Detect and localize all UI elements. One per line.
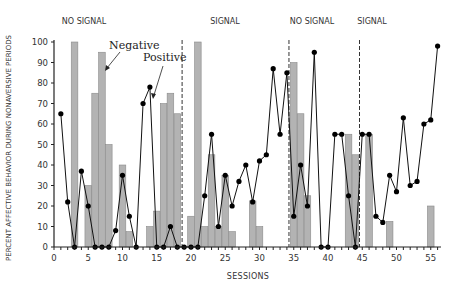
y-tick-label: 90 <box>37 58 48 68</box>
positive-marker <box>223 173 228 178</box>
positive-marker <box>147 85 152 90</box>
y-axis-title: PERCENT AFFECTIVE BEHAVIOR DURING NONAVE… <box>5 34 13 261</box>
negative-bar <box>249 201 256 247</box>
positive-marker <box>264 152 269 157</box>
negative-bar <box>215 227 222 248</box>
positive-marker <box>346 193 351 198</box>
positive-marker <box>140 101 145 106</box>
positive-marker <box>209 132 214 137</box>
positive-marker <box>360 132 365 137</box>
phase-label: SIGNAL <box>210 17 240 26</box>
positive-marker <box>277 132 282 137</box>
x-tick-label: 55 <box>425 253 436 263</box>
positive-marker <box>168 224 173 229</box>
negative-bar <box>174 114 181 247</box>
negative-bar <box>92 93 99 247</box>
negative-bar <box>366 134 373 247</box>
negative-bar <box>201 227 208 248</box>
y-tick-label: 100 <box>32 37 48 47</box>
positive-annotation: Positive <box>143 51 186 64</box>
positive-marker <box>387 173 392 178</box>
positive-marker <box>65 199 70 204</box>
x-tick-label: 25 <box>220 253 231 263</box>
positive-marker <box>250 199 255 204</box>
positive-marker <box>367 132 372 137</box>
positive-marker <box>373 214 378 219</box>
positive-marker <box>298 162 303 167</box>
positive-marker <box>86 203 91 208</box>
positive-marker <box>271 66 276 71</box>
phase-labels: NO SIGNALSIGNALNO SIGNALSIGNAL <box>62 17 388 26</box>
negative-bar <box>229 232 236 247</box>
y-tick-label: 70 <box>37 99 48 109</box>
positive-marker <box>428 117 433 122</box>
chart: NO SIGNALSIGNALNO SIGNALSIGNAL PERCENT A… <box>0 0 458 293</box>
negative-bar <box>99 52 106 247</box>
annotations: NegativePositive <box>105 39 186 99</box>
positive-marker <box>421 121 426 126</box>
y-tick-label: 80 <box>37 78 48 88</box>
positive-marker <box>408 183 413 188</box>
positive-marker <box>79 169 84 174</box>
phase-label: NO SIGNAL <box>290 17 335 26</box>
negative-bar <box>256 227 263 248</box>
positive-marker <box>312 50 317 55</box>
positive-marker <box>339 132 344 137</box>
positive-marker <box>380 220 385 225</box>
negative-bar <box>386 221 393 247</box>
negative-bar <box>106 145 113 248</box>
positive-marker <box>230 203 235 208</box>
positive-marker <box>435 44 440 49</box>
positive-marker <box>332 132 337 137</box>
negative-bar <box>160 104 167 248</box>
positive-marker <box>120 173 125 178</box>
negative-bar <box>126 232 133 247</box>
x-tick-label: 35 <box>288 253 299 263</box>
negative-bar <box>188 216 195 247</box>
positive-marker <box>305 203 310 208</box>
y-tick-label: 50 <box>37 140 48 150</box>
negative-bar <box>290 63 297 248</box>
x-tick-label: 0 <box>51 253 56 263</box>
x-axis-title: SESSIONS <box>227 272 269 281</box>
negative-bar <box>427 206 434 247</box>
positive-marker <box>202 193 207 198</box>
y-tick-label: 60 <box>37 119 48 129</box>
positive-marker <box>401 115 406 120</box>
negative-bar <box>195 42 202 247</box>
negative-bar <box>345 134 352 247</box>
positive-marker <box>113 228 118 233</box>
y-tick-label: 0 <box>43 242 48 252</box>
x-tick-label: 15 <box>151 253 162 263</box>
positive-marker <box>58 111 63 116</box>
positive-marker <box>236 179 241 184</box>
positive-marker <box>257 158 262 163</box>
x-tick-label: 45 <box>357 253 368 263</box>
x-tick-label: 5 <box>86 253 91 263</box>
positive-marker <box>284 70 289 75</box>
positive-marker <box>127 214 132 219</box>
y-tick-label: 40 <box>37 160 48 170</box>
x-tick-label: 50 <box>391 253 402 263</box>
phase-label: NO SIGNAL <box>62 17 107 26</box>
x-tick-label: 30 <box>254 253 265 263</box>
negative-bar <box>147 227 154 248</box>
positive-marker <box>216 224 221 229</box>
x-tick-label: 20 <box>186 253 197 263</box>
positive-marker <box>394 189 399 194</box>
y-tick-label: 20 <box>37 201 48 211</box>
x-tick-label: 40 <box>323 253 334 263</box>
positive-marker <box>243 162 248 167</box>
y-tick-label: 10 <box>37 222 48 232</box>
x-tick-label: 10 <box>117 253 128 263</box>
y-tick-label: 30 <box>37 181 48 191</box>
y-axis-label: PERCENT AFFECTIVE BEHAVIOR DURING NONAVE… <box>5 34 13 261</box>
negative-bars <box>71 42 434 247</box>
positive-marker <box>414 179 419 184</box>
positive-marker <box>291 214 296 219</box>
phase-label: SIGNAL <box>357 17 387 26</box>
